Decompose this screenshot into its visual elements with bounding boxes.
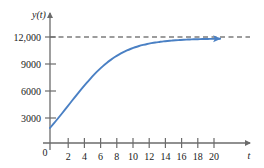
- x-axis-label: t: [248, 150, 251, 161]
- x-tick-label-12: 12: [144, 151, 154, 162]
- x-tick-label-20: 20: [209, 151, 219, 162]
- x-tick-label-16: 16: [177, 151, 187, 162]
- y-tick-label-3000: 3000: [21, 113, 41, 124]
- x-tick-label-8: 8: [114, 151, 119, 162]
- origin-label: 0: [43, 147, 48, 158]
- x-tick-label-18: 18: [193, 151, 203, 162]
- logistic-growth-chart: 12,000 9000 6000 3000 2 4 6 8 10 12 14 1…: [0, 0, 264, 168]
- y-tick-label-6000: 6000: [21, 86, 41, 97]
- y-tick-label-12000: 12,000: [14, 32, 42, 43]
- y-axis-label: y(t): [31, 9, 47, 21]
- logistic-curve: [50, 39, 220, 128]
- chart-canvas: 12,000 9000 6000 3000 2 4 6 8 10 12 14 1…: [0, 0, 264, 168]
- x-tick-label-14: 14: [160, 151, 170, 162]
- x-tick-label-10: 10: [128, 151, 138, 162]
- x-tick-label-2: 2: [66, 151, 71, 162]
- x-tick-label-6: 6: [98, 151, 103, 162]
- y-tick-label-9000: 9000: [21, 59, 41, 70]
- x-tick-label-4: 4: [82, 151, 87, 162]
